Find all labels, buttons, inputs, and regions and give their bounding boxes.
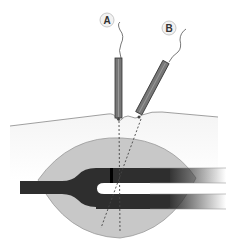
diagram-canvas: A B — [0, 0, 236, 251]
label-b-text: B — [165, 23, 172, 34]
label-a-text: A — [103, 15, 110, 26]
probe-a — [115, 22, 123, 121]
diagram-svg: A B — [0, 0, 236, 251]
probe-b — [136, 29, 186, 119]
label-b: B — [162, 21, 176, 35]
marker-band — [110, 168, 113, 183]
label-a: A — [100, 13, 114, 27]
probe-a-wire — [119, 22, 123, 58]
